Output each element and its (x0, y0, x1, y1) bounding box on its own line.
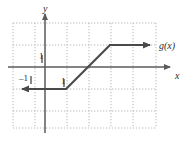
grid-lines (13, 23, 157, 128)
coordinate-plane-svg (0, 0, 186, 141)
tick-label-neg-one: –1 (19, 74, 28, 83)
tick-label-x-one: 1 (61, 77, 66, 86)
tick-marks (31, 55, 64, 87)
y-axis-label: y (43, 4, 47, 14)
axes (8, 14, 170, 133)
function-label-gx: g(x) (159, 41, 175, 51)
x-axis-label: x (175, 71, 179, 81)
tick-label-y-one: 1 (39, 52, 44, 61)
graph-figure: y x g(x) –1 1 1 (0, 0, 186, 141)
